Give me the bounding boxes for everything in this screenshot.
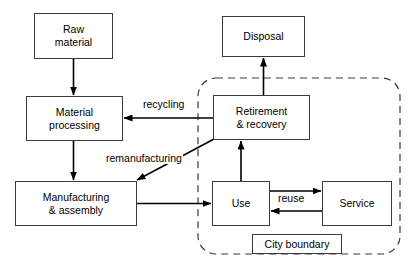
city-boundary-label: City boundary — [252, 234, 342, 254]
edge-label-recycling: recycling — [142, 98, 185, 110]
edge-label-reuse: reuse — [277, 192, 305, 204]
node-disposal[interactable]: Disposal — [222, 16, 305, 57]
node-use[interactable]: Use — [212, 181, 270, 226]
edge-label-remanufacturing: remanufacturing — [105, 152, 183, 164]
node-manufacturing-assembly[interactable]: Manufacturing & assembly — [15, 181, 137, 226]
node-retirement-recovery[interactable]: Retirement & recovery — [213, 95, 310, 140]
node-service[interactable]: Service — [322, 181, 392, 226]
node-material-processing[interactable]: Material processing — [26, 96, 123, 141]
diagram-canvas: Raw material Material processing Manufac… — [0, 0, 412, 274]
node-raw-material[interactable]: Raw material — [34, 13, 113, 59]
